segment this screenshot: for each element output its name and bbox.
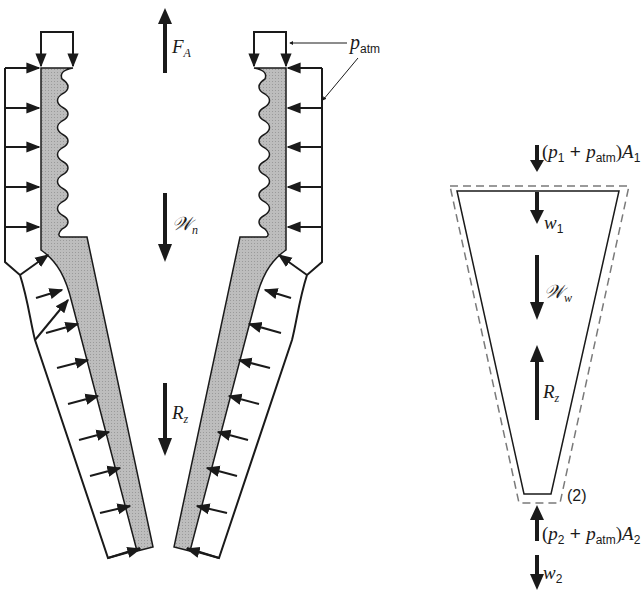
label-section-2: (2) bbox=[567, 488, 587, 504]
control-volume bbox=[450, 186, 629, 503]
label-patm: patm bbox=[350, 32, 380, 52]
label-reaction-left: Rz bbox=[172, 403, 188, 422]
patm-leaders bbox=[290, 43, 358, 100]
label-outlet-force: (p2 + patm)A2 bbox=[542, 524, 640, 543]
label-w1: w1 bbox=[544, 213, 563, 232]
left-nozzle-wall bbox=[41, 68, 153, 551]
diagram-canvas bbox=[0, 0, 641, 611]
label-w2: w2 bbox=[543, 563, 562, 582]
label-reaction-right: Rz bbox=[543, 382, 559, 401]
label-weight-water: 𝒲w bbox=[544, 282, 572, 301]
center-force-arrows bbox=[158, 8, 172, 456]
label-force-a: FA bbox=[172, 37, 191, 56]
right-nozzle-wall bbox=[174, 32, 322, 558]
label-weight-nozzle: 𝒲n bbox=[172, 214, 198, 233]
label-inlet-force: (p1 + patm)A1 bbox=[542, 142, 640, 161]
